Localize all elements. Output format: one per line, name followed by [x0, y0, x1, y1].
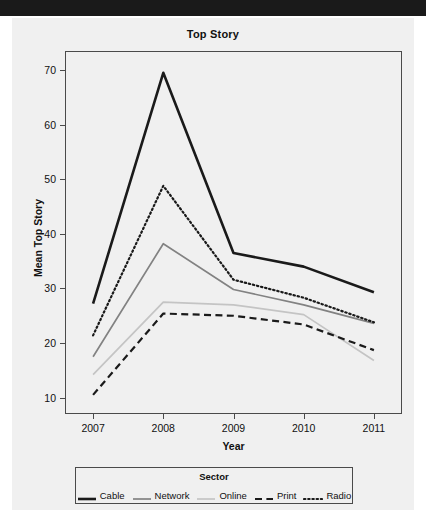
- legend-key-cable: [77, 490, 97, 500]
- chart-figure: Top Story 10203040506070 200720082009201…: [12, 18, 414, 510]
- x-tick-label: 2011: [352, 422, 396, 434]
- y-tick-mark: [60, 288, 65, 289]
- y-tick-mark: [60, 398, 65, 399]
- legend-label: Radio: [326, 490, 351, 501]
- legend-item-network[interactable]: Network: [132, 490, 190, 501]
- page-title: Top Story: [12, 28, 414, 40]
- y-tick-label: 10: [26, 392, 56, 404]
- series-line-network: [93, 244, 374, 357]
- legend-item-radio[interactable]: Radio: [303, 490, 351, 501]
- legend-label: Online: [219, 490, 246, 501]
- x-tick-label: 2009: [212, 422, 256, 434]
- x-tick-mark: [304, 414, 305, 419]
- x-tick-label: 2010: [282, 422, 326, 434]
- series-line-cable: [93, 73, 374, 304]
- x-tick-mark: [234, 414, 235, 419]
- legend-key-radio: [303, 490, 323, 500]
- legend-key-online: [196, 490, 216, 500]
- legend-item-print[interactable]: Print: [254, 490, 297, 501]
- legend-label: Network: [155, 490, 190, 501]
- y-tick-mark: [60, 125, 65, 126]
- legend-key-network: [132, 490, 152, 500]
- plot-lines: [65, 51, 402, 414]
- y-axis-title: Mean Top Story: [32, 168, 44, 308]
- y-tick-mark: [60, 234, 65, 235]
- x-tick-mark: [93, 414, 94, 419]
- x-tick-mark: [163, 414, 164, 419]
- screenshot-root: Top Story 10203040506070 200720082009201…: [0, 0, 426, 514]
- x-axis-title: Year: [65, 440, 402, 452]
- legend-item-cable[interactable]: Cable: [77, 490, 125, 501]
- y-tick-label: 60: [26, 119, 56, 131]
- y-tick-label: 70: [26, 64, 56, 76]
- y-tick-mark: [60, 70, 65, 71]
- x-tick-label: 2007: [71, 422, 115, 434]
- series-line-print: [93, 314, 374, 395]
- legend-key-print: [254, 490, 274, 500]
- legend-label: Cable: [100, 490, 125, 501]
- legend-title: Sector: [76, 471, 352, 482]
- legend: Sector CableNetworkOnlinePrintRadio: [75, 467, 353, 504]
- legend-item-online[interactable]: Online: [196, 490, 246, 501]
- y-tick-mark: [60, 343, 65, 344]
- x-tick-label: 2008: [141, 422, 185, 434]
- y-tick-mark: [60, 179, 65, 180]
- top-black-bar: [0, 0, 426, 16]
- y-tick-label: 20: [26, 337, 56, 349]
- legend-items: CableNetworkOnlinePrintRadio: [76, 487, 352, 503]
- x-tick-mark: [374, 414, 375, 419]
- legend-label: Print: [277, 490, 297, 501]
